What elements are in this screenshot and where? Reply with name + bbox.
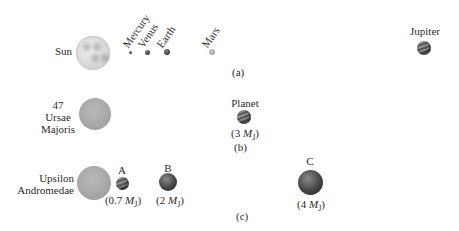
planet-c-name: C xyxy=(300,155,320,167)
mass-value: (3 xyxy=(231,127,240,139)
star-b-label-line2: Ursae xyxy=(38,111,78,123)
panel-b-label: (b) xyxy=(234,141,247,153)
earth-dot xyxy=(164,49,170,55)
star-b-label-line1: 47 xyxy=(38,99,78,111)
mass-value: (0.7 xyxy=(105,194,122,206)
sun-label: Sun xyxy=(42,45,72,57)
star-b-circle xyxy=(79,98,111,130)
planet-b-circle xyxy=(159,173,177,191)
planet-a-mass: (0.7 MJ) xyxy=(100,194,146,211)
star-c-label-line1: Upsilon xyxy=(8,172,74,184)
mass-close: ) xyxy=(321,198,325,210)
mars-label: Mars xyxy=(199,25,222,50)
star-b-label-line3: Majoris xyxy=(38,123,78,135)
venus-dot xyxy=(145,50,150,55)
mass-unit: M xyxy=(243,127,252,139)
panel-a-label: (a) xyxy=(232,66,244,78)
planet-b-mass: (2 MJ) xyxy=(150,194,190,211)
planet-b-name: Planet xyxy=(220,97,270,109)
mars-dot xyxy=(209,49,215,55)
planet-c-mass: (4 MJ) xyxy=(290,198,332,215)
mass-close: ) xyxy=(255,127,259,139)
sun-circle xyxy=(76,36,110,70)
jupiter-label: Jupiter xyxy=(400,25,450,37)
jupiter-circle xyxy=(417,41,431,55)
mass-unit: M xyxy=(125,194,134,206)
star-c-label-line2: Andromedae xyxy=(8,184,74,196)
mass-unit: M xyxy=(168,194,177,206)
mass-value: (2 xyxy=(156,194,165,206)
mass-close: ) xyxy=(180,194,184,206)
panel-c-label: (c) xyxy=(236,210,248,222)
planet-a-name: A xyxy=(112,164,132,176)
planet-b-circle xyxy=(237,110,251,124)
planet-c-circle xyxy=(298,170,323,195)
mass-value: (4 xyxy=(297,198,306,210)
planet-a-circle xyxy=(116,177,129,190)
mass-close: ) xyxy=(137,194,141,206)
mercury-dot xyxy=(129,51,132,54)
mass-unit: M xyxy=(309,198,318,210)
